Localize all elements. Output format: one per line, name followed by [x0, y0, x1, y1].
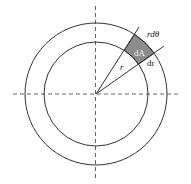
label-dA: dA	[134, 48, 146, 58]
label-r: r	[120, 62, 124, 72]
label-dr: dr	[147, 58, 155, 68]
polar-area-element-diagram: dA rdθ dr r	[0, 0, 191, 184]
label-rdtheta: rdθ	[147, 29, 160, 39]
ray-upper	[96, 27, 139, 94]
